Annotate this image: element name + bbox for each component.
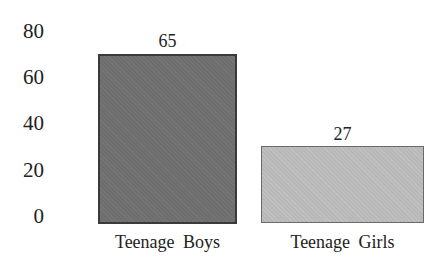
y-tick-60: 60 [10, 66, 44, 88]
y-tick-80: 80 [10, 20, 44, 42]
bar-value-label-girls: 27 [261, 124, 424, 144]
y-tick-20: 20 [10, 159, 44, 181]
bar-teenage-girls [261, 146, 424, 223]
category-label-boys: Teenage Boys [98, 232, 237, 252]
category-label-girls: Teenage Girls [261, 232, 424, 252]
y-tick-40: 40 [10, 112, 44, 134]
y-tick-0: 0 [10, 205, 44, 227]
bar-teenage-boys [98, 54, 237, 224]
bar-value-label-boys: 65 [98, 31, 237, 51]
